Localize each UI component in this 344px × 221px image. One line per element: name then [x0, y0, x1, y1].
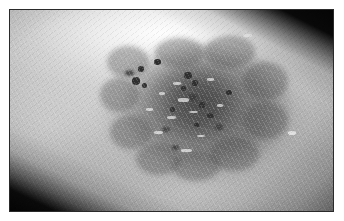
crust-fleck — [207, 78, 214, 81]
crust-fleck — [154, 131, 163, 134]
lesion-lobe — [243, 62, 288, 100]
crust-fleck — [243, 34, 253, 37]
pigment-speck — [172, 145, 179, 150]
pigment-speck — [215, 124, 223, 130]
crust-fleck — [159, 92, 165, 94]
pigment-speck — [184, 72, 191, 78]
lesion-lobe — [243, 102, 288, 138]
pigment-speck — [226, 90, 231, 94]
crust-fleck — [146, 108, 153, 111]
pigment-speck — [154, 59, 160, 64]
crust-fleck — [173, 82, 181, 85]
pigment-speck — [181, 86, 186, 91]
pigment-speck — [170, 107, 175, 111]
pigment-speck — [199, 102, 205, 107]
crust-fleck — [217, 104, 223, 106]
clinical-photograph-frame — [9, 9, 334, 212]
crust-fleck — [288, 131, 296, 135]
pigment-speck — [132, 77, 140, 84]
crust-fleck — [181, 149, 191, 152]
lesion-lobe — [110, 115, 152, 149]
clinical-photograph-image — [10, 10, 333, 211]
crust-fleck — [167, 116, 177, 119]
pigment-speck — [162, 127, 170, 133]
crust-fleck — [178, 98, 189, 101]
pigment-speck — [207, 113, 214, 119]
figure-root — [0, 0, 344, 221]
pigment-speck — [192, 80, 198, 86]
pigment-speck — [194, 123, 199, 128]
lesion-crusted-core — [149, 62, 246, 154]
